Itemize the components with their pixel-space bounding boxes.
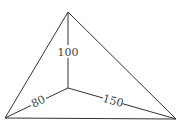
- label-interior-top: 100: [58, 46, 79, 59]
- segment-interior-bottom-right-left: [68, 88, 103, 98]
- label-interior-bottom-left: 80: [29, 93, 47, 111]
- segment-interior-bottom-left-upper: [46, 88, 68, 99]
- triangle-diagram: 100 80 150: [0, 0, 189, 136]
- edge-bottom: [5, 118, 176, 119]
- label-interior-bottom-right: 150: [101, 92, 125, 110]
